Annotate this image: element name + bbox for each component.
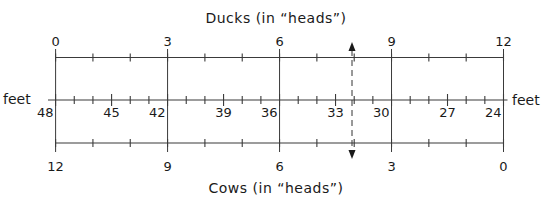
feet-tick-label: 39 xyxy=(215,105,232,120)
feet-tick-label: 45 xyxy=(103,105,120,120)
feet-tick-label: 42 xyxy=(149,105,166,120)
feet-unit-label-left: feet xyxy=(3,91,31,107)
cows-tick-label: 12 xyxy=(47,159,64,174)
feet-number-line: 484542393633302724 xyxy=(37,94,507,120)
cows-tick-label: 0 xyxy=(499,159,507,174)
cows-tick-label: 9 xyxy=(163,159,171,174)
ducks-tick-label: 12 xyxy=(495,34,512,49)
ducks-tick-label: 6 xyxy=(275,34,283,49)
feet-tick-label: 27 xyxy=(439,105,456,120)
duck-cow-feet-number-line-diagram: Ducks (in “heads”) Cows (in “heads”) 036… xyxy=(0,0,558,206)
arrowhead-down-icon xyxy=(349,150,356,159)
ducks-tick-label: 0 xyxy=(51,34,59,49)
feet-unit-label-right: feet xyxy=(512,92,540,108)
feet-tick-label: 36 xyxy=(261,105,278,120)
cows-tick-label: 3 xyxy=(387,159,395,174)
feet-tick-label: 48 xyxy=(37,105,54,120)
ducks-tick-label: 9 xyxy=(387,34,395,49)
ducks-axis-title: Ducks (in “heads”) xyxy=(205,10,346,26)
ducks-tick-label: 3 xyxy=(163,34,171,49)
cows-axis-title: Cows (in “heads”) xyxy=(209,180,344,196)
ducks-number-line: 036912 xyxy=(51,34,511,62)
cows-number-line: 129630 xyxy=(47,139,507,174)
cows-tick-label: 6 xyxy=(275,159,283,174)
feet-tick-label: 33 xyxy=(327,105,344,120)
feet-tick-label: 24 xyxy=(485,105,502,120)
arrowhead-up-icon xyxy=(349,42,356,51)
feet-tick-label: 30 xyxy=(373,105,390,120)
